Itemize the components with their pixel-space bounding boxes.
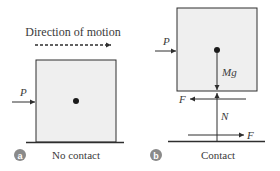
direction-of-motion-label: Direction of motion xyxy=(25,25,120,39)
badge-b-letter: b xyxy=(153,151,159,161)
center-of-mass-dot-a xyxy=(73,98,79,104)
panel-b-contact: P Mg F N F b Contact xyxy=(150,8,265,161)
push-force-label-a: P xyxy=(19,86,27,98)
panel-a-no-contact: Direction of motion P a No contact xyxy=(12,25,124,161)
caption-a: No contact xyxy=(52,149,100,161)
caption-b: Contact xyxy=(201,149,235,161)
friction-on-floor-label: F xyxy=(246,129,254,141)
push-force-label-b: P xyxy=(162,35,170,47)
friction-on-block-label: F xyxy=(178,93,186,105)
physics-diagram: Direction of motion P a No contact P Mg … xyxy=(0,0,280,171)
weight-label: Mg xyxy=(221,66,237,78)
normal-force-label: N xyxy=(220,110,229,122)
